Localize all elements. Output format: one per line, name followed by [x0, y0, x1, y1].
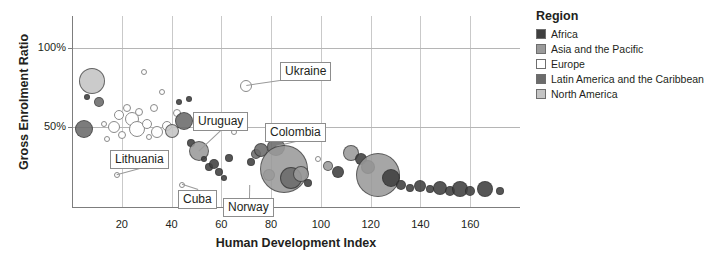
bubble-point [101, 121, 107, 127]
bubble-point [175, 112, 193, 130]
bubble-point [142, 119, 152, 129]
x-tick-label: 140 [400, 218, 440, 230]
x-axis-title: Human Development Index [72, 236, 520, 250]
y-tick-mark [68, 127, 73, 128]
bubble-point [123, 104, 131, 112]
leader-line-norway [249, 185, 250, 198]
legend-item-label: North America [551, 88, 618, 100]
bubble-point [114, 110, 124, 120]
bubble-point [176, 99, 182, 105]
legend-item-label: Asia and the Pacific [551, 43, 643, 55]
bubble-point [84, 94, 90, 100]
legend-item-asia-and-the-pacific[interactable]: Asia and the Pacific [536, 42, 698, 55]
x-tick-label: 20 [102, 218, 142, 230]
legend-swatch-icon [536, 29, 546, 39]
x-tick-label: 120 [351, 218, 391, 230]
legend-item-north-america[interactable]: North America [536, 87, 698, 100]
bubble-point [315, 156, 321, 162]
bubble-point [221, 175, 227, 181]
bubble-point [104, 136, 110, 142]
bubble-point [201, 156, 207, 162]
bubble-point [141, 69, 147, 75]
bubble-point [304, 179, 312, 187]
bubble-point [396, 180, 406, 190]
bubble-point [94, 97, 104, 107]
bubble-point [332, 166, 344, 178]
bubble-layer [72, 16, 520, 207]
bubble-point [159, 89, 165, 95]
bubble-point [150, 104, 158, 112]
legend-swatch-icon [536, 74, 546, 84]
bubble-point [225, 154, 233, 162]
legend-item-africa[interactable]: Africa [536, 27, 698, 40]
annotation-norway[interactable]: Norway [223, 198, 274, 217]
bubble-point [75, 120, 93, 138]
annotation-cuba[interactable]: Cuba [178, 190, 217, 209]
x-tick-label: 40 [152, 218, 192, 230]
bubble-point [406, 184, 414, 192]
legend-swatch-icon [536, 59, 546, 69]
bubble-point [247, 158, 255, 166]
annotation-uruguay[interactable]: Uruguay [193, 112, 248, 131]
bubble-point [496, 187, 504, 195]
x-tick-label: 60 [201, 218, 241, 230]
legend-item-latin-america-and-the-caribbean[interactable]: Latin America and the Caribbean [536, 72, 698, 85]
annotation-lithuania[interactable]: Lithuania [110, 150, 169, 169]
legend-items: AfricaAsia and the PacificEuropeLatin Am… [536, 27, 698, 100]
legend-swatch-icon [536, 44, 546, 54]
x-tick-label: 80 [251, 218, 291, 230]
bubble-point [135, 108, 143, 116]
x-tick-label: 160 [450, 218, 490, 230]
annotation-ukraine[interactable]: Ukraine [280, 62, 331, 81]
bubble-point [118, 131, 126, 139]
legend-swatch-icon [536, 89, 546, 99]
legend-title: Region [536, 9, 698, 23]
bubble-point [151, 126, 163, 138]
bubble-point [465, 186, 475, 196]
legend-item-label: Africa [551, 28, 578, 40]
bubble-point [477, 181, 493, 197]
legend: Region AfricaAsia and the PacificEuropeL… [536, 9, 698, 102]
y-axis-title: Gross Enrolment Ratio [17, 12, 31, 192]
bubble-point [79, 68, 105, 94]
bubble-point [186, 96, 192, 102]
y-tick-mark [68, 48, 73, 49]
x-tick-label: 100 [301, 218, 341, 230]
legend-item-europe[interactable]: Europe [536, 57, 698, 70]
annotation-colombia[interactable]: Colombia [265, 123, 326, 142]
bubble-point [414, 180, 426, 192]
legend-item-label: Latin America and the Caribbean [551, 73, 704, 85]
x-axis-line [72, 207, 520, 208]
legend-item-label: Europe [551, 58, 585, 70]
